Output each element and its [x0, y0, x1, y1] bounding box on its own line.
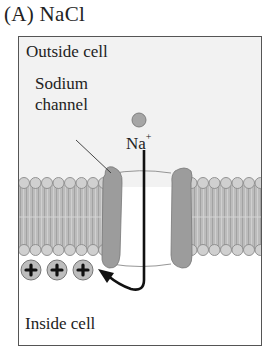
outside-cell-label: Outside cell: [26, 42, 108, 62]
membrane-left: [19, 178, 110, 256]
sodium-ion-label: Na+: [126, 129, 151, 154]
sodium-channel-label: Sodium channel: [35, 73, 88, 115]
ion-charge: +: [146, 131, 152, 142]
panel-title: (A) NaCl: [4, 2, 85, 27]
sodium-ion: [132, 113, 146, 127]
channel-label-line2: channel: [35, 94, 88, 115]
cell-diagram: Outside cell Sodium channel Na+ Inside c…: [18, 36, 262, 346]
channel-subunit-right: [171, 168, 192, 268]
channel-subunit-left: [102, 167, 122, 268]
channel-label-line1: Sodium: [35, 73, 88, 94]
inside-cell-label: Inside cell: [25, 314, 95, 334]
ion-symbol: Na: [126, 134, 146, 153]
